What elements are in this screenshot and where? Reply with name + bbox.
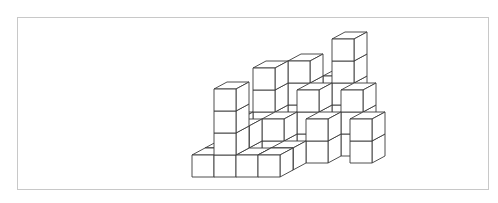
cube xyxy=(262,112,297,141)
cube xyxy=(288,54,323,83)
cube-stack-diagram xyxy=(0,0,498,203)
cube xyxy=(332,32,367,61)
cube xyxy=(214,82,249,111)
cube xyxy=(350,112,385,141)
cube xyxy=(306,112,341,141)
cube xyxy=(297,83,332,112)
cube xyxy=(253,61,288,90)
cube xyxy=(341,83,376,112)
cube xyxy=(258,148,293,177)
